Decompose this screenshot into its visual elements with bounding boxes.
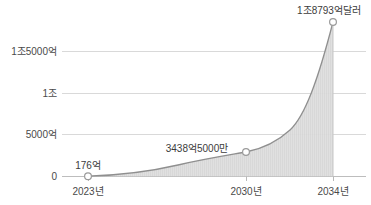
data-label-2034: 1조8793억달러 (297, 5, 361, 16)
x-axis-label-2023: 2023년 (72, 186, 103, 197)
data-point-marker-2034[interactable] (330, 19, 337, 26)
y-axis-label-4: 0 (51, 171, 57, 182)
x-axis-label-2030: 2030년 (230, 186, 261, 197)
x-axis-ticks (89, 177, 334, 182)
y-axis-label-1: 1조5000억 (11, 46, 57, 57)
data-point-marker-2023[interactable] (85, 173, 92, 180)
y-axis-label-3: 5000억 (26, 129, 57, 140)
x-axis-label-2034: 2034년 (317, 186, 348, 197)
data-point-marker-2030[interactable] (243, 149, 250, 156)
y-axis-label-2: 1조 (42, 88, 57, 99)
data-label-2030: 3438억5000만 (166, 143, 229, 154)
data-label-2023: 176억 (75, 160, 101, 171)
chart-container: 1조5000억 1조 5000억 0 2023년 2030년 2034년 176… (0, 0, 371, 205)
